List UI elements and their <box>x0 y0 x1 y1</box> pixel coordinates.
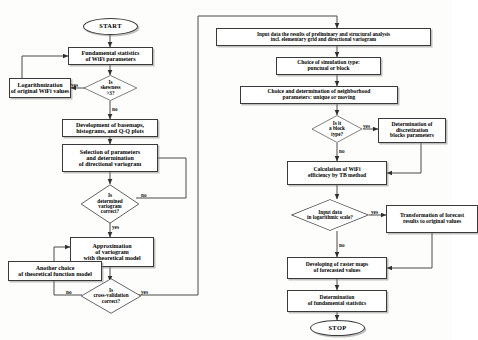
decision-cross-validation: Is cross-validation correct? <box>80 278 142 314</box>
log-no-text: no <box>339 242 344 248</box>
decision-logarithmic-scale: Input data in logarithmic scale? <box>290 199 370 231</box>
node-selection-parameters-label: Selection of parameters and determinatio… <box>79 149 142 168</box>
edge-label-block-yes: yes <box>363 123 370 129</box>
node-raster-maps-label: Developing of raster maps of forecasted … <box>306 262 369 274</box>
edge-label-log-yes: yes <box>371 209 378 215</box>
node-transformation-forecast-label: Transformation of forecast results to or… <box>400 213 464 225</box>
edge-label-skewness-yes: yes <box>71 82 78 88</box>
log-yes-text: yes <box>371 209 378 215</box>
node-transformation-forecast: Transformation of forecast results to or… <box>386 205 478 233</box>
crossval-no-text: no <box>66 289 71 295</box>
node-choice-simulation-type-label: Choice of simulation type: punctual or b… <box>297 60 360 72</box>
node-calculation-wifi-efficiency: Calculation of WiFi efficiency by TB met… <box>287 161 387 185</box>
node-discretization-blocks-label: Determination of discretization blocks p… <box>379 122 445 140</box>
edge-label-block-no: no <box>339 148 344 154</box>
node-development-basemaps-label: Development of basemaps, histograms, and… <box>76 122 144 135</box>
variogram-yes-text: yes <box>112 224 119 230</box>
skew-no-text: no <box>112 106 117 112</box>
edge-label-crossval-no: no <box>66 289 71 295</box>
decision-variogram-correct: Is determined variogram correct? <box>80 184 140 224</box>
start-label: START <box>99 23 122 30</box>
node-neighborhood-parameters-label: Choice and determination of neighborhood… <box>268 89 371 101</box>
node-raster-maps: Developing of raster maps of forecasted … <box>287 257 387 279</box>
stop-label: STOP <box>328 325 346 332</box>
node-fundamental-statistics-label: Fundamental statistics of WiFi parameter… <box>82 50 140 63</box>
node-determination-statistics: Determination of fundamental statistics <box>287 290 387 312</box>
decision-block-type-label: Is it a block type? <box>315 121 360 137</box>
skewness-line-3: >3? <box>87 91 134 96</box>
blocktype-line-3: type? <box>315 132 360 137</box>
crossval-line-3: correct? <box>84 299 137 304</box>
start-terminator: START <box>83 18 138 35</box>
node-calculation-wifi-efficiency-label: Calculation of WiFi efficiency by TB met… <box>308 167 366 179</box>
skew-yes-text: yes <box>71 82 78 88</box>
node-determination-statistics-label: Determination of fundamental statistics <box>308 295 366 307</box>
decision-skewness-label: Is skewness >3? <box>87 80 134 96</box>
block-yes-text: yes <box>363 123 370 129</box>
node-logarithmization: Logarithmization of original WiFi values <box>9 78 71 98</box>
node-approximation-variogram-label: Approximation of variogram with theoreti… <box>83 243 140 262</box>
node-development-basemaps: Development of basemaps, histograms, and… <box>62 119 158 137</box>
edge-label-crossval-yes: yes <box>141 289 148 295</box>
edge-label-variogram-yes: yes <box>112 224 119 230</box>
crossval-yes-text: yes <box>141 289 148 295</box>
decision-logarithmic-scale-label: Input data in logarithmic scale? <box>296 210 365 221</box>
node-another-choice-model-label: Another choice of theoretical function m… <box>18 265 92 278</box>
edge-label-variogram-no: no <box>141 192 146 198</box>
node-selection-parameters: Selection of parameters and determinatio… <box>62 144 158 172</box>
logscale-line-2: in logarithmic scale? <box>296 215 365 220</box>
block-no-text: no <box>339 148 344 154</box>
decision-cross-validation-label: Is cross-validation correct? <box>84 288 137 304</box>
decision-variogram-label: Is determined variogram correct? <box>84 193 136 215</box>
variogram-no-text: no <box>141 192 146 198</box>
node-input-data-results-label: Input data the results of preliminary an… <box>257 32 390 43</box>
stop-terminator: STOP <box>310 320 365 336</box>
node-logarithmization-label: Logarithmization of original WiFi values <box>11 82 69 95</box>
decision-block-type: Is it a block type? <box>311 115 363 143</box>
node-neighborhood-parameters: Choice and determination of neighborhood… <box>240 86 398 104</box>
edge-label-skewness-no: no <box>112 106 117 112</box>
variogram-line-4: correct? <box>84 209 136 214</box>
node-input-data-results: Input data the results of preliminary an… <box>216 28 431 46</box>
node-discretization-blocks: Determination of discretization blocks p… <box>378 118 446 143</box>
edge-label-log-no: no <box>339 242 344 248</box>
decision-skewness: Is skewness >3? <box>83 75 138 101</box>
node-choice-simulation-type: Choice of simulation type: punctual or b… <box>276 57 381 75</box>
node-fundamental-statistics: Fundamental statistics of WiFi parameter… <box>68 47 153 65</box>
